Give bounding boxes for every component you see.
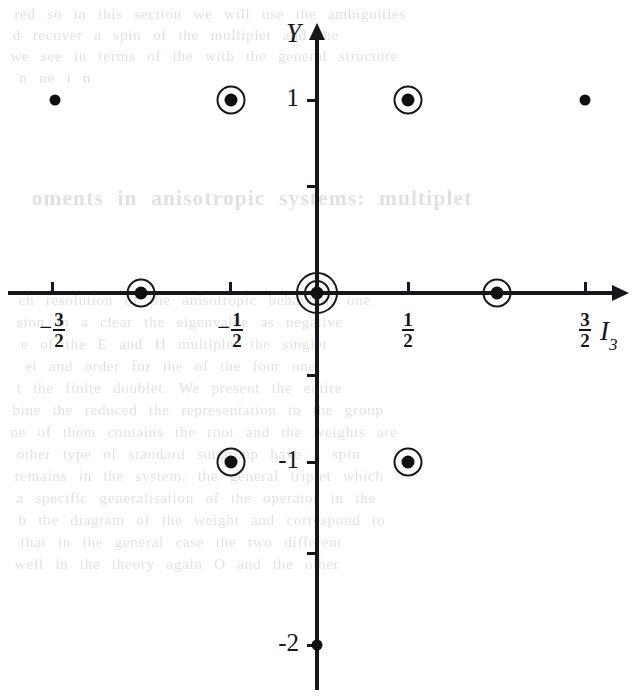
data-point <box>297 625 337 665</box>
data-point-dot <box>312 640 323 651</box>
data-point <box>388 442 428 482</box>
fraction-denominator: 2 <box>579 329 591 350</box>
y-axis-arrowhead <box>309 23 325 40</box>
x-axis-tick <box>229 282 232 293</box>
fraction-numerator: 3 <box>53 310 65 329</box>
data-point <box>297 273 337 313</box>
x-axis-tick <box>407 282 410 293</box>
y-axis-tick <box>307 461 318 464</box>
x-axis-tick <box>584 282 587 293</box>
fraction-denominator: 2 <box>402 329 414 350</box>
data-point-dot <box>135 287 148 300</box>
fraction: 32 <box>53 310 65 351</box>
data-point-dot <box>402 456 415 469</box>
y-axis-tick-label: -2 <box>231 629 299 657</box>
x-axis-tick-label: 12 <box>368 309 448 350</box>
data-point <box>388 80 428 120</box>
data-point-dot <box>311 287 324 300</box>
data-point <box>211 80 251 120</box>
data-point-dot <box>225 456 238 469</box>
x-axis-arrowhead <box>612 285 629 301</box>
x-axis-tick-label: 32 <box>545 309 625 350</box>
y-axis-tick <box>307 99 318 102</box>
y-axis-tick <box>307 185 318 188</box>
x-axis-tick-label: −12 <box>190 309 270 350</box>
y-axis-tick <box>307 374 318 377</box>
fraction-numerator: 3 <box>579 310 591 329</box>
fraction: 12 <box>402 310 414 351</box>
y-axis-tick <box>307 552 318 555</box>
data-point <box>477 273 517 313</box>
fraction-denominator: 2 <box>53 329 65 350</box>
x-axis-tick <box>51 282 54 293</box>
fraction-numerator: 1 <box>402 310 414 329</box>
data-point-dot <box>580 95 591 106</box>
fraction-numerator: 1 <box>231 310 243 329</box>
weight-diagram-figure: oments in anisotropic systems: multiplet… <box>0 0 638 698</box>
plot-area: I3Y−32−1212321-1-2 <box>0 0 638 698</box>
data-point-dot <box>225 94 238 107</box>
data-point <box>121 273 161 313</box>
data-point-dot <box>402 94 415 107</box>
y-axis-line <box>315 40 319 690</box>
y-axis-label: Y <box>286 18 301 49</box>
data-point-dot <box>491 287 504 300</box>
minus-sign: − <box>39 315 52 341</box>
x-axis-tick-label: −32 <box>12 309 92 350</box>
data-point-dot <box>50 95 61 106</box>
fraction: 32 <box>579 310 591 351</box>
data-point <box>35 80 75 120</box>
data-point <box>211 442 251 482</box>
data-point <box>565 80 605 120</box>
minus-sign: − <box>217 315 230 341</box>
fraction: 12 <box>231 310 243 351</box>
fraction-denominator: 2 <box>231 329 243 350</box>
